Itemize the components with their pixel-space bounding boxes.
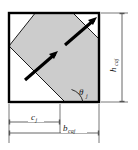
- offset-subscript: j: [35, 117, 38, 123]
- height-symbol: h: [108, 67, 118, 72]
- offset-label: c j: [28, 111, 44, 123]
- height-subscript: caj: [113, 58, 119, 66]
- angle-symbol: θ: [79, 87, 84, 97]
- cross-section-diagram: θ j h caj: [0, 0, 138, 150]
- figure-container: θ j h caj: [0, 0, 138, 150]
- angle-subscript: j: [85, 93, 88, 99]
- height-label: h caj: [108, 42, 119, 74]
- width-subscript: caj: [68, 128, 76, 134]
- offset-symbol: c: [31, 112, 35, 122]
- width-label: b caj: [61, 121, 87, 134]
- width-dimensions: c j b caj: [9, 104, 99, 143]
- height-dimension: h caj: [101, 13, 128, 102]
